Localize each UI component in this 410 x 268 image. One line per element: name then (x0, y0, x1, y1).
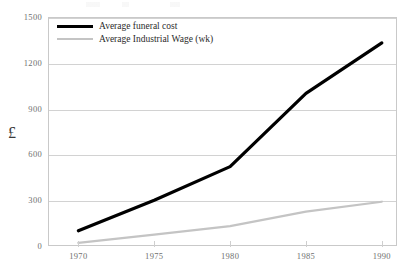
legend-swatch-industrial-wage (57, 38, 93, 40)
x-axis-tick-label: 1980 (221, 251, 239, 261)
legend-label-industrial-wage: Average Industrial Wage (wk) (99, 35, 213, 45)
legend-swatch-funeral-cost (57, 25, 93, 28)
legend-label-funeral-cost: Average funeral cost (99, 22, 177, 32)
line-chart: 030060090012001500 £ 1970197519801985199… (0, 0, 410, 268)
x-axis-tick-mark (230, 241, 231, 247)
legend-item-industrial-wage: Average Industrial Wage (wk) (57, 35, 213, 45)
legend-item-funeral-cost: Average funeral cost (57, 22, 213, 32)
chart-legend: Average funeral cost Average Industrial … (57, 22, 213, 44)
x-axis-tick-mark (154, 241, 155, 247)
x-axis-tick-mark (382, 241, 383, 247)
x-axis-tick-label: 1970 (69, 251, 87, 261)
x-axis-tick-mark (306, 241, 307, 247)
x-axis-tick-label: 1985 (297, 251, 315, 261)
x-axis-tick-label: 1975 (145, 251, 163, 261)
x-axis-tick-mark (78, 241, 79, 247)
x-axis-tick-label: 1990 (373, 251, 391, 261)
